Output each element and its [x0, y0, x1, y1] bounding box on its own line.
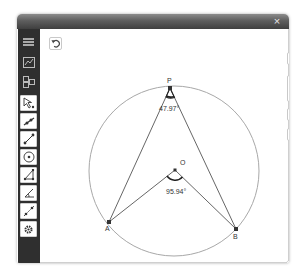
tool-point[interactable] [20, 113, 37, 129]
segment-icon [23, 133, 35, 145]
perspectives-button[interactable] [20, 74, 37, 90]
toolbar-sidebar [18, 29, 40, 263]
label-b: B [233, 233, 238, 240]
hamburger-icon [23, 38, 34, 46]
label-a: A [105, 225, 110, 232]
gear-icon [23, 224, 34, 235]
segment-ob[interactable] [175, 170, 236, 229]
angle-marker-aob [167, 176, 183, 180]
label-p: P [167, 77, 172, 84]
angle-arc-apb [167, 96, 175, 97]
circle-center-point-icon [23, 151, 35, 163]
angle-icon [23, 187, 35, 199]
point-p[interactable] [168, 86, 172, 90]
line-tools-icon [23, 205, 35, 217]
point-o[interactable] [174, 169, 177, 172]
title-bar[interactable]: × [17, 14, 289, 29]
point-a[interactable] [107, 220, 111, 224]
angle-label-aob: 95.94° [166, 188, 187, 195]
graphics-canvas[interactable]: + − U [40, 29, 289, 263]
segment-oa[interactable] [109, 170, 175, 222]
tool-settings[interactable] [20, 221, 37, 237]
point-on-object-icon [23, 115, 35, 127]
graphics-view-icon [23, 57, 35, 68]
graphics-view-button[interactable] [20, 54, 37, 70]
tool-circle[interactable] [20, 149, 37, 165]
zoom-in-button[interactable]: + [288, 76, 289, 88]
close-button[interactable]: × [271, 15, 283, 27]
tool-segment[interactable] [20, 131, 37, 147]
perspectives-icon [23, 76, 35, 88]
tool-angle[interactable] [20, 185, 37, 201]
move-arrow-icon [23, 97, 35, 109]
menu-button[interactable] [20, 34, 37, 50]
label-o: O [180, 159, 186, 166]
zoom-out-button[interactable]: − [288, 89, 289, 101]
geometry-drawing: P O A B 47.97° 95.94° [40, 29, 288, 262]
geogebra-window: × [17, 14, 289, 263]
tool-line[interactable] [20, 203, 37, 219]
tool-polygon[interactable] [20, 167, 37, 183]
angle-label-apb: 47.97° [159, 105, 180, 112]
point-b[interactable] [234, 227, 238, 231]
polygon-icon [23, 169, 35, 181]
tool-move[interactable] [20, 95, 37, 111]
